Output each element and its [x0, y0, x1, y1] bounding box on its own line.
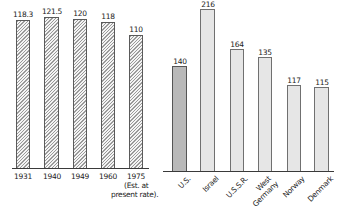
- value-label-1960: 118: [93, 12, 123, 21]
- x-label-1949: 1949: [65, 172, 95, 181]
- bar-us: [172, 66, 187, 171]
- x-label-us: U.S.: [177, 175, 192, 190]
- bar-1960: [101, 22, 115, 168]
- value-label-norway: 117: [279, 76, 309, 85]
- estimate-note-line2: present rate).: [111, 190, 158, 199]
- bar-west-germany: [258, 57, 272, 171]
- x-label-1975: 1975: [121, 172, 151, 181]
- left-bar-chart: 118.3 1931 121.5 1940 120 1949 118 1960 …: [0, 0, 160, 212]
- bar-1940: [44, 17, 59, 168]
- value-label-1975: 110: [121, 25, 151, 34]
- bar-denmark: [314, 87, 329, 171]
- value-label-us: 140: [165, 57, 195, 66]
- bar-1949: [73, 19, 87, 168]
- estimate-note-line1: (Est. at: [124, 181, 148, 190]
- x-label-norway: Norway: [282, 175, 307, 200]
- value-label-israel: 216: [193, 0, 223, 9]
- bar-norway: [287, 85, 301, 171]
- value-label-denmark: 115: [307, 78, 337, 87]
- x-label-denmark: Denmark: [306, 175, 335, 204]
- value-label-1931: 118.3: [8, 10, 38, 19]
- value-label-1940: 121.5: [37, 7, 67, 16]
- bar-1931: [16, 20, 30, 168]
- x-label-1960: 1960: [93, 172, 123, 181]
- value-label-1949: 120: [65, 9, 95, 18]
- x-label-ussr: U.S.S.R.: [225, 175, 250, 200]
- right-baseline: [163, 171, 334, 172]
- left-baseline: [12, 168, 149, 169]
- right-bar-chart: 140 U.S. 216 Israel 164 U.S.S.R. 135 Wes…: [160, 0, 334, 212]
- value-label-ussr: 164: [222, 40, 252, 49]
- bar-1975: [129, 35, 143, 168]
- x-label-1931: 1931: [8, 172, 38, 181]
- value-label-west-germany: 135: [250, 48, 280, 57]
- bar-ussr: [230, 49, 244, 171]
- x-label-1940: 1940: [37, 172, 67, 181]
- x-label-israel: Israel: [202, 175, 221, 194]
- bar-israel: [200, 9, 215, 171]
